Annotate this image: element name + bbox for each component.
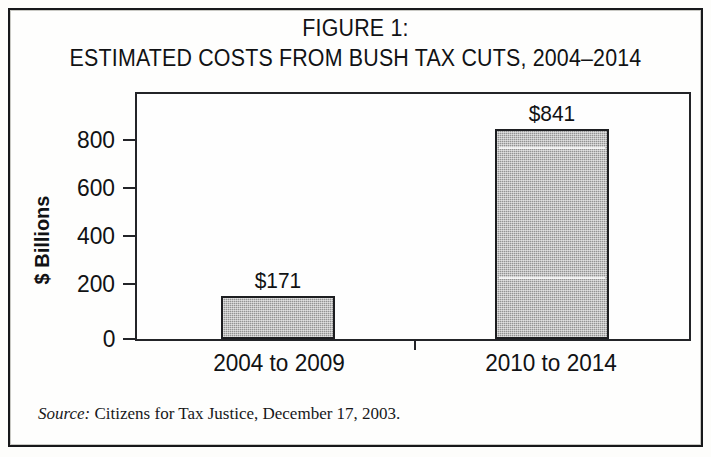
figure-subtitle: ESTIMATED COSTS FROM BUSH TAX CUTS, 2004… <box>38 43 673 73</box>
scan-artifact-lower <box>499 277 605 279</box>
bar-value-2010-to-2014: $841 <box>498 103 606 125</box>
source-label: Source: <box>38 404 90 423</box>
y-axis-label: $ Billions <box>32 196 52 285</box>
y-tick-label-800: 800 <box>77 128 115 152</box>
bar-2010-to-2014[interactable] <box>495 129 609 339</box>
plot-area: 0 200 400 600 800 $171 $841 2004 to 2009… <box>135 92 691 341</box>
x-tick-mid <box>414 339 416 350</box>
y-tick-label-200: 200 <box>77 272 115 296</box>
source-text: Citizens for Tax Justice, December 17, 2… <box>90 404 400 423</box>
y-tick-600 <box>123 187 137 189</box>
source-note: Source: Citizens for Tax Justice, Decemb… <box>38 404 400 424</box>
y-tick-0 <box>123 338 137 340</box>
y-tick-800 <box>123 139 137 141</box>
figure-title: FIGURE 1: <box>38 14 673 43</box>
bar-2004-to-2009[interactable] <box>221 296 335 339</box>
y-tick-label-0: 0 <box>102 327 115 351</box>
bar-value-2004-to-2009: $171 <box>224 270 332 292</box>
y-tick-400 <box>123 235 137 237</box>
y-axis-label-wrap: $ Billions <box>20 150 64 330</box>
figure-title-block: FIGURE 1: ESTIMATED COSTS FROM BUSH TAX … <box>14 14 697 73</box>
y-tick-label-600: 600 <box>77 176 115 200</box>
x-tick-label-2010-to-2014: 2010 to 2014 <box>436 350 665 376</box>
scan-artifact-upper <box>499 147 605 149</box>
x-tick-label-2004-to-2009: 2004 to 2009 <box>164 350 393 376</box>
figure-root: FIGURE 1: ESTIMATED COSTS FROM BUSH TAX … <box>0 0 711 457</box>
y-tick-200 <box>123 283 137 285</box>
y-tick-label-400: 400 <box>77 224 115 248</box>
